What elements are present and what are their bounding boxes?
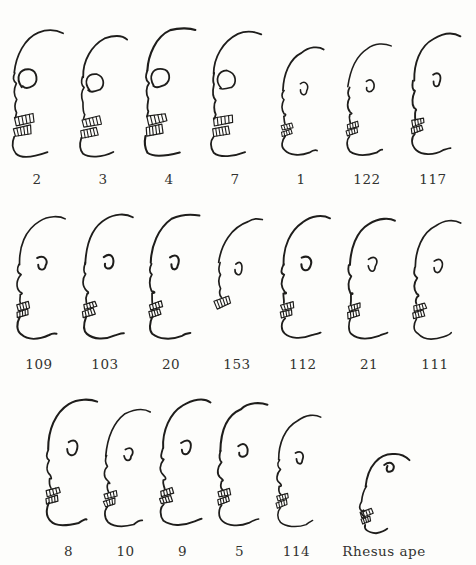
figure-cell-114: 114 (268, 403, 325, 560)
figure-cell-103: 103 (72, 200, 138, 373)
profile-sketch-7 (203, 19, 268, 165)
figure-label-1: 1 (296, 170, 305, 188)
figure-cell-3: 3 (70, 24, 136, 188)
figure-cell-rhesus-ape: Rhesus ape (325, 393, 443, 560)
profile-sketch-117 (401, 19, 466, 165)
profile-sketch-109 (6, 203, 72, 350)
figure-cell-1: 1 (268, 34, 334, 188)
figure-label-9: 9 (178, 542, 187, 560)
figure-label-3: 3 (98, 170, 107, 188)
profile-sketch-20 (138, 201, 205, 350)
figure-label-117: 117 (419, 170, 446, 188)
figure-label-7: 7 (230, 170, 239, 188)
figure-plate: 23471122117 1091032015311221111 81095114… (0, 0, 476, 565)
figure-cell-117: 117 (400, 19, 466, 188)
figure-label-8: 8 (64, 542, 73, 560)
figure-label-2: 2 (32, 170, 41, 188)
figure-cell-153: 153 (204, 206, 270, 373)
profile-sketch-21 (337, 204, 402, 350)
profile-sketch-1 (272, 34, 330, 165)
figure-label-10: 10 (116, 542, 134, 560)
profile-sketch-8 (35, 385, 103, 537)
figure-label-rhesus-ape: Rhesus ape (342, 542, 425, 560)
profile-sketch-111 (403, 207, 467, 350)
figure-label-21: 21 (360, 355, 378, 373)
rhesus-ape-sketch (352, 393, 417, 537)
figure-row-3: 81095114Rhesus ape (0, 378, 443, 560)
figure-label-153: 153 (223, 355, 250, 373)
figure-cell-109: 109 (6, 203, 72, 373)
profile-sketch-103 (72, 200, 139, 350)
figure-cell-9: 9 (154, 385, 211, 560)
figure-cell-4: 4 (136, 15, 202, 188)
profile-sketch-114 (267, 403, 327, 537)
figure-cell-5: 5 (211, 390, 268, 560)
profile-sketch-112 (270, 203, 336, 350)
profile-sketch-153 (205, 206, 270, 350)
profile-sketch-122 (337, 31, 397, 165)
figure-label-122: 122 (353, 170, 380, 188)
figure-label-111: 111 (421, 355, 448, 373)
figure-row-2: 1091032015311221111 (0, 189, 468, 373)
figure-cell-10: 10 (97, 397, 154, 560)
figure-label-103: 103 (91, 355, 118, 373)
profile-sketch-3 (72, 24, 135, 165)
figure-label-5: 5 (235, 542, 244, 560)
profile-sketch-5 (207, 390, 273, 537)
figure-cell-7: 7 (202, 19, 268, 188)
figure-row-1: 23471122117 (0, 0, 466, 188)
figure-cell-2: 2 (4, 18, 70, 188)
figure-cell-112: 112 (270, 203, 336, 373)
figure-label-114: 114 (283, 542, 310, 560)
profile-sketch-2 (4, 18, 70, 165)
figure-cell-8: 8 (40, 385, 97, 560)
figure-cell-122: 122 (334, 31, 400, 188)
figure-label-109: 109 (25, 355, 52, 373)
figure-label-20: 20 (162, 355, 180, 373)
figure-label-112: 112 (289, 355, 316, 373)
profile-sketch-4 (136, 15, 203, 165)
figure-label-4: 4 (164, 170, 173, 188)
figure-cell-21: 21 (336, 204, 402, 373)
figure-cell-20: 20 (138, 201, 204, 373)
figure-cell-111: 111 (402, 207, 468, 373)
